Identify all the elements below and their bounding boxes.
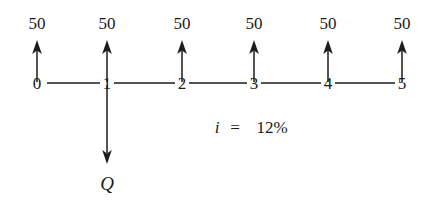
interest-rate-annotation: i = 12% xyxy=(215,118,288,137)
node-label-4: 4 xyxy=(324,74,333,93)
amount-label-period-2: 50 xyxy=(174,14,191,33)
cash-flow-canvas: 50 50 50 50 50 50 0 1 2 3 4 5 Q i = 12% xyxy=(0,0,427,202)
amount-label-period-5: 50 xyxy=(394,14,411,33)
unknown-outflow-label: Q xyxy=(100,173,114,194)
amount-label-period-0: 50 xyxy=(29,14,46,33)
node-label-5: 5 xyxy=(398,74,407,93)
node-label-3: 3 xyxy=(250,74,259,93)
amount-label-period-1: 50 xyxy=(99,14,116,33)
interest-rate-value: 12% xyxy=(256,118,287,137)
node-label-0: 0 xyxy=(33,74,42,93)
cash-flow-diagram: 50 50 50 50 50 50 0 1 2 3 4 5 Q i = 12% xyxy=(0,0,427,202)
interest-rate-equals: = xyxy=(230,118,240,137)
node-label-2: 2 xyxy=(178,74,187,93)
amount-label-period-3: 50 xyxy=(246,14,263,33)
amount-label-period-4: 50 xyxy=(320,14,337,33)
node-label-1: 1 xyxy=(103,74,112,93)
outflow-arrow-period-1 xyxy=(102,85,112,164)
interest-rate-variable: i xyxy=(215,118,220,137)
